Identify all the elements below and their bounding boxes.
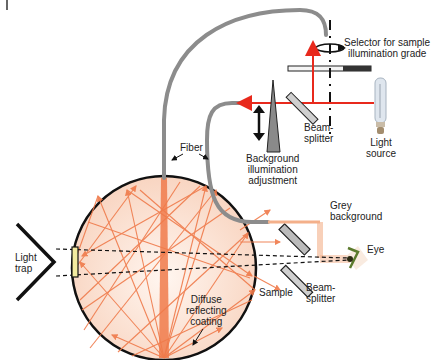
grey-background-line1: Grey	[330, 200, 382, 211]
coating-line3: coating	[186, 316, 227, 327]
background-adjust-line3: adjustment	[246, 175, 299, 186]
light-source-line1: Light	[366, 137, 396, 148]
beam-splitter-top-line2: splitter	[304, 133, 333, 144]
grey-background-label: Grey background	[330, 200, 382, 222]
light-trap-label: Light trap	[15, 252, 37, 274]
selector-label-line1: Selector for sample	[344, 37, 430, 48]
background-wedge[interactable]	[267, 80, 280, 152]
beam-splitter-top-line1: Beam-	[304, 122, 333, 133]
grey-background-plate	[279, 224, 310, 255]
selector-label: Selector for sample illumination grade	[344, 37, 430, 59]
beam-splitter-bottom-line1: Beam-	[306, 282, 335, 293]
eye-label: Eye	[367, 244, 384, 255]
background-adjust-line1: Background	[246, 153, 299, 164]
selector-label-line2: illumination grade	[344, 48, 430, 59]
light-bulb-icon	[375, 78, 386, 134]
fiber-pointer-arrows	[172, 154, 208, 160]
background-adjust-label: Background illumination adjustment	[246, 153, 299, 186]
eye-icon	[346, 246, 368, 270]
beam-splitter-top-label: Beam- splitter	[304, 122, 333, 144]
light-source-line2: source	[366, 148, 396, 159]
beam-splitter-bottom-line2: splitter	[306, 293, 335, 304]
grey-background-line2: background	[330, 211, 382, 222]
light-source-label: Light source	[366, 137, 396, 159]
beam-splitter-bottom-label: Beam- splitter	[306, 282, 335, 304]
sample-label: Sample	[259, 287, 293, 298]
coating-line2: reflecting	[186, 305, 227, 316]
background-adjust-line2: illumination	[246, 164, 299, 175]
double-arrow-icon	[253, 105, 265, 141]
coating-line1: Diffuse	[186, 294, 227, 305]
light-trap-line2: trap	[15, 263, 37, 274]
fiber-label: Fiber	[180, 142, 203, 153]
sample-port	[72, 247, 78, 277]
coating-label: Diffuse reflecting coating	[186, 294, 227, 327]
light-trap-line1: Light	[15, 252, 37, 263]
